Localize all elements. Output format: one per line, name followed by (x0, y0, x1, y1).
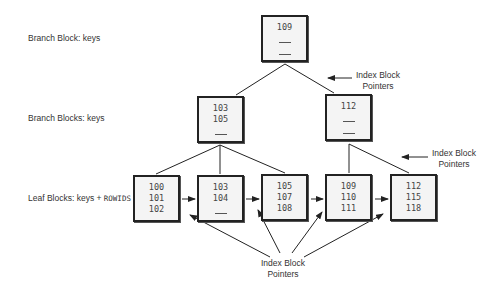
pointer-label-bottom: Index Block Pointers (261, 258, 305, 280)
branch-level-label: Branch Blocks: keys (28, 113, 105, 123)
root-branch-block: 109 (261, 15, 308, 62)
key: 109 (341, 181, 356, 192)
key: 110 (341, 192, 356, 203)
pointer-label-top: Index Block Pointers (356, 70, 400, 92)
leaf-block-3: 105 107 108 (261, 174, 308, 221)
key: 100 (149, 182, 164, 193)
key: 109 (277, 22, 292, 33)
pointer-label-line1: Index Block (432, 148, 476, 159)
empty-slot (215, 125, 227, 135)
leaf-block-4: 109 110 111 (325, 174, 372, 221)
empty-slot (215, 204, 227, 214)
branch-block-2: 112 (325, 94, 372, 141)
pointer-label-line2: Pointers (356, 81, 400, 92)
key: 101 (149, 193, 164, 204)
leaf-block-2: 103 104 (197, 175, 244, 222)
pointer-label-line2: Pointers (261, 269, 305, 280)
pointer-label-line1: Index Block (356, 70, 400, 81)
key: 105 (213, 114, 228, 125)
key: 118 (406, 203, 421, 214)
key: 112 (341, 101, 356, 112)
pointer-label-right: Index Block Pointers (432, 148, 476, 170)
pointer-label-line2: Pointers (432, 159, 476, 170)
pointer-label-line1: Index Block (261, 258, 305, 269)
empty-slot (343, 112, 355, 122)
key: 108 (277, 203, 292, 214)
leaf-label-rowids: ROWIDS (104, 194, 131, 203)
key: 103 (213, 182, 228, 193)
leaf-level-label: Leaf Blocks: keys + ROWIDS (28, 193, 131, 203)
leaf-label-text: Leaf Blocks: keys + (28, 193, 104, 203)
key: 115 (406, 192, 421, 203)
leaf-block-5: 112 115 118 (390, 174, 437, 221)
root-level-label: Branch Block: keys (28, 33, 100, 43)
key: 111 (341, 203, 356, 214)
leaf-block-1: 100 101 102 (133, 175, 180, 222)
empty-slot (279, 33, 291, 43)
key: 102 (149, 204, 164, 215)
key: 104 (213, 193, 228, 204)
key: 103 (213, 103, 228, 114)
key: 105 (277, 181, 292, 192)
connector-lines (0, 0, 495, 291)
key: 112 (406, 181, 421, 192)
empty-slot (343, 124, 355, 134)
empty-slot (279, 45, 291, 55)
branch-block-1: 103 105 (197, 96, 244, 143)
key: 107 (277, 192, 292, 203)
